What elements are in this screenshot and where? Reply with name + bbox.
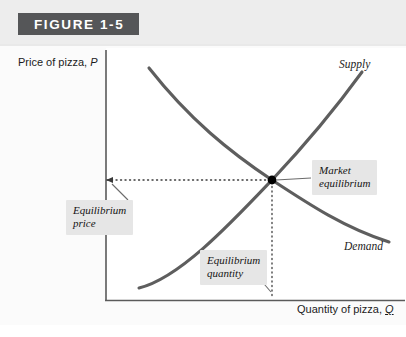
- figure-root: FIGURE 1-5 Price of pizza, P Quantity of…: [0, 0, 406, 337]
- x-axis-label-text: Quantity of pizza,: [297, 303, 385, 315]
- y-axis-label-symbol: P: [90, 56, 97, 68]
- y-axis-label: Price of pizza, P: [18, 56, 97, 68]
- market-equilibrium-callout-line2: equilibrium: [319, 177, 370, 190]
- x-axis-label: Quantity of pizza, Q: [297, 303, 394, 315]
- market-equilibrium-leader-line: [276, 178, 311, 180]
- market-equilibrium-callout: Market equilibrium: [312, 160, 377, 195]
- supply-curve-label: Supply: [339, 58, 370, 70]
- equilibrium-price-callout: Equilibrium price: [66, 200, 133, 235]
- equilibrium-price-callout-line2: price: [73, 217, 126, 230]
- equilibrium-price-leader-line: [112, 184, 128, 200]
- equilibrium-quantity-callout-line2: quantity: [207, 267, 260, 280]
- demand-curve-label: Demand: [344, 240, 383, 252]
- equilibrium-point-marker: [268, 176, 277, 185]
- y-axis-label-text: Price of pizza,: [18, 56, 90, 68]
- x-axis-label-symbol: Q: [385, 303, 394, 315]
- equilibrium-price-callout-line1: Equilibrium: [73, 204, 126, 217]
- equilibrium-quantity-callout-line1: Equilibrium: [207, 254, 260, 267]
- demand-curve: [149, 68, 389, 242]
- equilibrium-price-arrowhead: [106, 177, 113, 183]
- market-equilibrium-callout-line1: Market: [319, 164, 370, 177]
- equilibrium-quantity-callout: Equilibrium quantity: [200, 250, 267, 285]
